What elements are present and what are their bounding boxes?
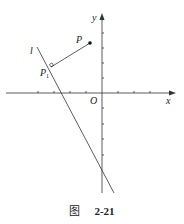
point-p1-label: P1 <box>39 67 49 79</box>
line-l <box>37 47 114 193</box>
y-axis-arrow-icon <box>100 13 105 20</box>
coordinate-diagram: P P1 l y x O <box>0 0 184 224</box>
figure-caption: 图2-21 <box>0 202 184 218</box>
y-axis <box>102 18 104 193</box>
line-l-label: l <box>30 45 33 56</box>
origin-label: O <box>90 95 97 106</box>
right-angle-marker-icon <box>49 63 53 67</box>
segment-p-p1 <box>51 43 90 67</box>
x-axis-label: x <box>165 95 171 106</box>
x-axis <box>6 91 172 93</box>
point-p-label: P <box>75 34 82 45</box>
y-axis-label: y <box>91 12 97 23</box>
point-p-dot-icon <box>88 41 92 45</box>
caption-word: 图 <box>69 205 80 217</box>
caption-number: 2-21 <box>94 205 114 217</box>
